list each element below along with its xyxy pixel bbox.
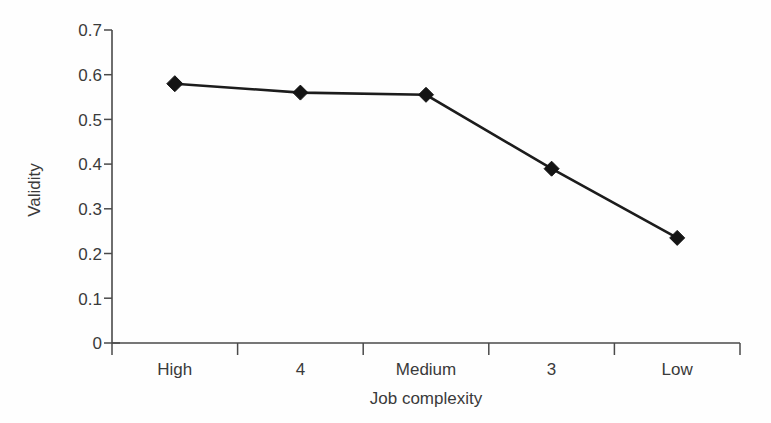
data-point-medium[interactable] [419, 87, 434, 102]
y-axis-title: Validity [25, 163, 44, 217]
y-tick-label-0: 0 [93, 334, 102, 353]
x-tick-label-4: 4 [296, 360, 305, 379]
y-tick-label-0.4: 0.4 [78, 155, 102, 174]
y-tick-label-0.3: 0.3 [78, 200, 102, 219]
x-tick-label-medium: Medium [396, 360, 456, 379]
data-point-low[interactable] [670, 230, 685, 245]
x-axis-title: Job complexity [370, 389, 483, 408]
data-point-3[interactable] [544, 161, 559, 176]
data-point-4[interactable] [293, 85, 308, 100]
y-tick-label-0.1: 0.1 [78, 290, 102, 309]
y-tick-label-0.5: 0.5 [78, 111, 102, 130]
y-tick-label-0.2: 0.2 [78, 245, 102, 264]
y-axis-tick-labels: 0.7 0.6 0.5 0.4 0.3 0.2 0.1 0 [78, 21, 102, 353]
chart-figure: 0.7 0.6 0.5 0.4 0.3 0.2 0.1 0 [0, 0, 771, 423]
y-tick-label-0.7: 0.7 [78, 21, 102, 40]
data-point-high[interactable] [167, 76, 183, 92]
line-chart-plot: 0.7 0.6 0.5 0.4 0.3 0.2 0.1 0 [0, 0, 771, 423]
x-tick-label-low: Low [662, 360, 694, 379]
series-markers-validity [167, 76, 685, 246]
x-tick-label-3: 3 [547, 360, 556, 379]
x-tick-label-high: High [157, 360, 192, 379]
x-axis-tick-labels: High 4 Medium 3 Low [157, 360, 693, 379]
series-line-validity [175, 84, 677, 238]
x-axis-tick-marks [112, 343, 740, 355]
y-tick-label-0.6: 0.6 [78, 66, 102, 85]
